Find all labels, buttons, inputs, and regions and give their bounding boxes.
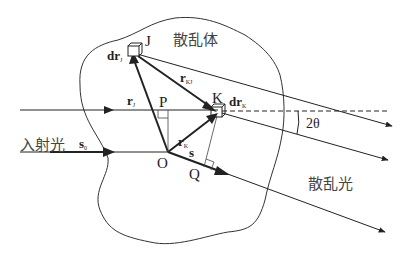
angle-arc [297,111,299,134]
drJ-label: drJ [107,49,122,63]
incident-upper-arrowhead [104,106,114,114]
s-label: s [189,146,194,159]
s-arrowhead [214,166,230,175]
scattered-ray-J [137,54,392,126]
point-O-label: O [157,156,168,171]
angle-2theta-label: 2θ [306,117,320,131]
s0-label: s0 [79,137,87,151]
incident-light-label: 入射光 [20,138,65,153]
rJ-label: rJ [127,94,135,108]
scattered-ray-K [222,113,388,160]
scattering-diagram: 散乱体 入射光 散乱光 J K P O Q drJ drK rJ rKJ rK … [0,0,413,256]
scattered-light-label: 散乱光 [308,177,353,192]
point-J-label: J [145,34,151,49]
point-K-label: K [212,91,223,106]
rK-label: rK [178,135,188,149]
s0-arrowhead [103,147,115,157]
drK-label: drK [229,95,246,109]
volume-element-J [128,43,142,56]
scatterer-label: 散乱体 [173,33,218,48]
point-Q-label: Q [189,167,200,182]
point-P-label: P [159,95,167,110]
rKJ-label: rKJ [180,71,192,85]
P-right-angle [158,110,168,118]
